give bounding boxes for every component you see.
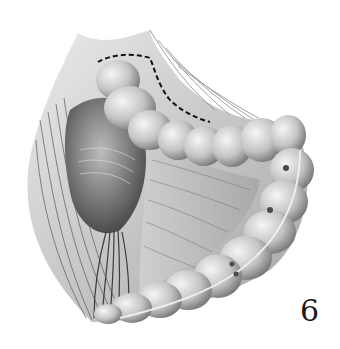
figure-number: 6 <box>300 296 319 326</box>
colon-drawing <box>0 0 340 349</box>
anatomical-illustration <box>0 0 340 349</box>
